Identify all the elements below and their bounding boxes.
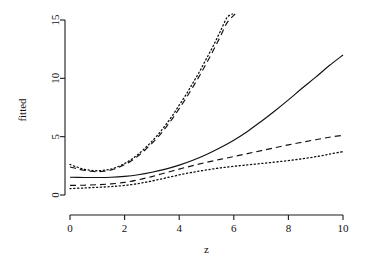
curve-dotted-steep [70,14,232,171]
data-curves [70,14,343,189]
x-tick-label: 8 [286,222,292,234]
x-tick-label: 2 [122,222,128,234]
x-tick-label: 0 [67,222,73,234]
x-tick-label: 10 [338,222,350,234]
y-tick-label: 5 [49,133,61,139]
x-axis: 0246810 z [67,215,349,255]
y-tick-label: 15 [49,14,61,26]
y-tick-label: 0 [49,192,61,198]
chart-figure: 051015 fitted 0246810 z [0,0,372,269]
y-axis-ticks: 051015 [49,14,65,198]
y-axis: 051015 fitted [16,14,65,198]
x-tick-label: 6 [231,222,237,234]
curve-solid [70,55,343,178]
curve-dashed-steep [70,14,235,172]
x-axis-title: z [204,243,209,255]
x-axis-ticks: 0246810 [67,215,349,234]
y-axis-title: fitted [16,98,28,122]
y-tick-label: 10 [49,72,61,84]
fitted-vs-z-line-chart: 051015 fitted 0246810 z [0,0,372,269]
x-tick-label: 4 [176,222,182,234]
curve-dashed-lower [70,135,343,185]
